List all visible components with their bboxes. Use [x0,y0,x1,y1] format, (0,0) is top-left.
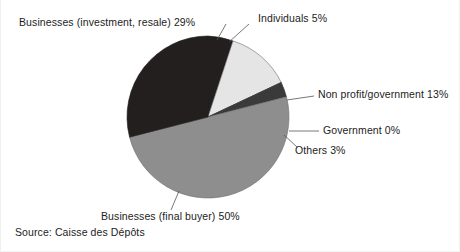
label-businesses-investment-resale: Businesses (investment, resale) 29% [19,16,195,28]
leader-line-individuals [229,24,249,42]
label-individuals: Individuals 5% [258,12,327,24]
label-others: Others 3% [295,144,346,156]
leader-line-nonprofit-government [287,96,314,100]
label-nonprofit-government: Non profit/government 13% [318,88,448,100]
label-businesses-final-buyer: Businesses (final buyer) 50% [101,210,240,222]
label-government: Government 0% [323,124,400,136]
source-note: Source: Caisse des Dépôts [15,226,145,238]
pie-chart-figure: Businesses (investment, resale) 29% Indi… [0,0,460,252]
leader-line-businesses-final [171,191,179,210]
